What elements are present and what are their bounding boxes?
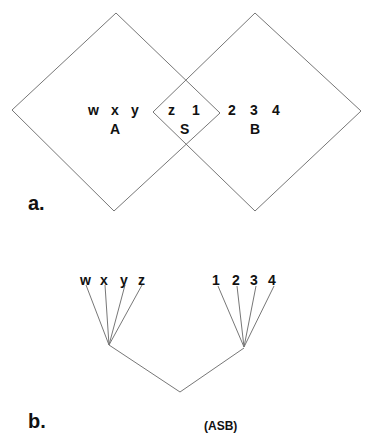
root-branch-left — [109, 345, 180, 392]
element-3: 3 — [250, 102, 258, 118]
branch-z — [109, 285, 142, 345]
leaf-4: 4 — [268, 272, 276, 288]
element-1: 1 — [192, 102, 200, 118]
root-branch-right — [180, 348, 244, 392]
leaf-1: 1 — [212, 272, 220, 288]
branch-3 — [244, 286, 256, 347]
element-w: w — [87, 102, 99, 118]
set-label-b: B — [250, 121, 260, 137]
leaf-3: 3 — [250, 272, 258, 288]
panel-b-label: b. — [28, 410, 46, 432]
element-y: y — [131, 102, 139, 118]
leaf-w: w — [79, 272, 91, 288]
panel-a-label: a. — [28, 192, 45, 214]
diagram-canvas: w x y z 1 2 3 4 A S B a. w x y z 1 2 3 4… — [0, 0, 370, 437]
branch-4 — [244, 286, 274, 347]
element-x: x — [111, 102, 119, 118]
leaf-2: 2 — [232, 272, 240, 288]
tree-caption: (ASB) — [204, 419, 237, 433]
element-2: 2 — [228, 102, 236, 118]
set-label-s: S — [180, 121, 189, 137]
leaf-x: x — [100, 272, 108, 288]
leaf-y: y — [120, 272, 128, 288]
element-4: 4 — [272, 102, 280, 118]
set-label-a: A — [110, 121, 120, 137]
leaf-z: z — [138, 272, 145, 288]
branch-y — [109, 285, 125, 345]
element-z: z — [168, 102, 175, 118]
